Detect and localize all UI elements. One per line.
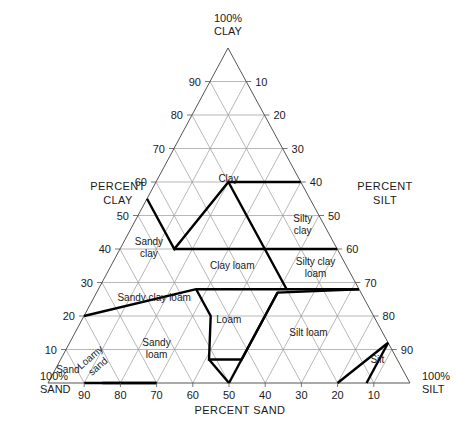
tick-bottom-sand-70: 70 xyxy=(150,389,162,401)
tick-right-silt-40: 40 xyxy=(310,176,322,188)
tick-right-silt-10: 10 xyxy=(255,76,267,88)
tick-right-silt-50: 50 xyxy=(328,210,340,222)
tick-right-silt-60: 60 xyxy=(346,243,358,255)
region-label-loamy-sand: Loamysand xyxy=(75,343,113,380)
tick-left-clay-20: 20 xyxy=(63,310,75,322)
region-label-silt-loam: Silt loam xyxy=(289,327,327,338)
region-boundary-5 xyxy=(209,360,229,383)
tick-right-silt-20: 20 xyxy=(273,109,285,121)
corner-label-sand: 100%SAND xyxy=(40,370,71,395)
region-label-silty-clay: Siltyclay xyxy=(293,213,312,236)
region-boundary-3 xyxy=(228,182,286,289)
region-label-clay: Clay xyxy=(218,173,238,184)
tick-right-silt-80: 80 xyxy=(383,310,395,322)
corner-label-clay: 100%CLAY xyxy=(214,12,243,37)
tick-left-clay-70: 70 xyxy=(153,143,165,155)
region-label-sandy-clay-loam: Sandy clay loam xyxy=(117,292,190,303)
tick-bottom-sand-90: 90 xyxy=(78,389,90,401)
tick-bottom-sand-30: 30 xyxy=(295,389,307,401)
axis-title-clay: PERCENTCLAY xyxy=(90,180,145,206)
tick-bottom-sand-40: 40 xyxy=(259,389,271,401)
tick-bottom-sand-10: 10 xyxy=(368,389,380,401)
corner-label-silt: 100%SILT xyxy=(422,370,450,395)
tick-bottom-sand-50: 50 xyxy=(223,389,235,401)
axis-title-sand: PERCENT SAND xyxy=(195,404,286,416)
axis-title-silt: PERCENTSILT xyxy=(357,180,412,206)
region-label-sandy-clay: Sandyclay xyxy=(135,236,163,259)
region-boundary-6 xyxy=(229,293,278,383)
region-label-silty-clay-loam: Silty clayloam xyxy=(296,256,335,279)
region-label-sandy-loam: Sandyloam xyxy=(142,337,170,360)
tick-left-clay-10: 10 xyxy=(45,344,57,356)
tick-left-clay-80: 80 xyxy=(171,109,183,121)
tick-bottom-sand-80: 80 xyxy=(114,389,126,401)
tick-bottom-sand-20: 20 xyxy=(331,389,343,401)
region-label-clay-loam: Clay loam xyxy=(210,260,254,271)
region-label-silt: Silt xyxy=(370,354,384,365)
region-label-loam: Loam xyxy=(216,314,241,325)
gridlines-layer xyxy=(66,82,392,384)
ternary-diagram: 1010102020203030304040405050506060607070… xyxy=(0,0,456,436)
tick-left-clay-30: 30 xyxy=(81,277,93,289)
soil-texture-triangle-figure: 1010102020203030304040405050506060607070… xyxy=(0,0,456,436)
tick-right-silt-90: 90 xyxy=(401,344,413,356)
tick-left-clay-50: 50 xyxy=(117,210,129,222)
tick-left-clay-40: 40 xyxy=(99,243,111,255)
tick-right-silt-70: 70 xyxy=(364,277,376,289)
tick-left-clay-90: 90 xyxy=(189,76,201,88)
tick-bottom-sand-60: 60 xyxy=(187,389,199,401)
tick-right-silt-30: 30 xyxy=(292,143,304,155)
